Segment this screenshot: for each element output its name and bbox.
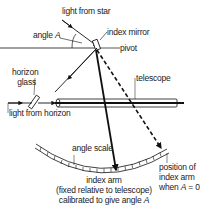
label-index-arm-note2: calibrated to give angle A xyxy=(44,195,164,205)
label-zero-position-value: = 0 xyxy=(186,182,200,192)
label-index-arm: index arm (fixed relative to telescope) … xyxy=(44,175,164,205)
label-light-from-star: light from star xyxy=(62,6,111,16)
label-angle-scale: angle scale xyxy=(72,143,113,153)
label-horizon-glass-line2: glass xyxy=(12,77,36,87)
label-index-arm-note1: (fixed relative to telescope) xyxy=(44,185,164,195)
label-zero-position-line3: when A = 0 xyxy=(159,182,200,192)
label-index-arm-title: index arm xyxy=(44,175,164,185)
label-angle-symbol: A xyxy=(55,30,60,40)
label-light-from-horizon: light from horizon xyxy=(9,108,71,118)
label-zero-position: position of index arm when A = 0 xyxy=(159,162,200,192)
label-angle-text: angle xyxy=(33,30,55,40)
label-index-arm-note2-symbol: A xyxy=(144,195,149,205)
label-zero-position-when: when xyxy=(159,182,181,192)
label-index-arm-note2-text: calibrated to give angle xyxy=(59,195,144,205)
label-horizon-glass-line1: horizon xyxy=(12,67,36,77)
label-telescope: telescope xyxy=(136,73,171,83)
label-horizon-glass: horizon glass xyxy=(12,67,36,87)
label-pivot: pivot xyxy=(120,43,137,53)
label-zero-position-line1: position of xyxy=(159,162,200,172)
label-index-mirror: index mirror xyxy=(107,27,149,37)
label-zero-position-line2: index arm xyxy=(159,172,200,182)
label-angle-a: angle A xyxy=(33,30,60,40)
horizon-glass xyxy=(28,95,39,109)
